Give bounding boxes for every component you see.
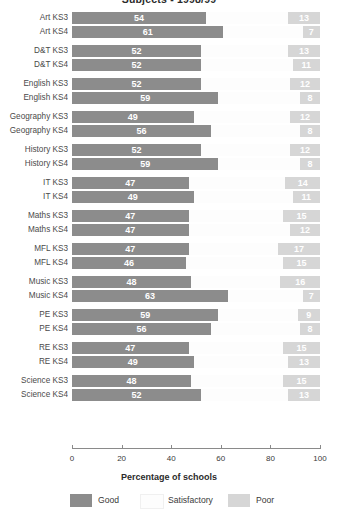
bar-segment-good: 59 <box>72 92 218 104</box>
bar-segment-good: 56 <box>72 125 211 137</box>
bar-group: PE KS3599PE KS4568 <box>0 309 338 335</box>
bar-track: 4715 <box>72 342 320 354</box>
bar-track: 4816 <box>72 276 320 288</box>
bar-value-good: 47 <box>72 342 189 354</box>
bar-row-label: Music KS4 <box>0 290 68 302</box>
bar-track: 568 <box>72 125 320 137</box>
bar-value-good: 47 <box>72 224 189 236</box>
bar-value-good: 48 <box>72 276 191 288</box>
bar-row: MFL KS34717 <box>0 243 338 255</box>
bar-segment-poor: 15 <box>283 257 320 269</box>
x-axis-title: Percentage of schools <box>0 472 338 482</box>
bar-segment-poor: 14 <box>285 177 320 189</box>
bar-segment-poor: 8 <box>300 125 320 137</box>
bar-row-label: Music KS3 <box>0 276 68 288</box>
bar-segment-poor: 12 <box>290 111 320 123</box>
bar-group: Geography KS34912Geography KS4568 <box>0 111 338 137</box>
bar-segment-poor: 13 <box>288 356 320 368</box>
bar-group: Science KS34815Science KS45213 <box>0 375 338 401</box>
bar-group: D&T KS35213D&T KS45211 <box>0 45 338 71</box>
bar-group: MFL KS34717MFL KS44615 <box>0 243 338 269</box>
axis-tick-label: 100 <box>313 454 326 463</box>
bar-segment-poor: 12 <box>290 144 320 156</box>
bar-segment-good: 54 <box>72 12 206 24</box>
bar-value-good: 52 <box>72 59 201 71</box>
bar-segment-good: 59 <box>72 309 218 321</box>
bar-segment-good: 47 <box>72 224 189 236</box>
bar-segment-poor: 8 <box>300 92 320 104</box>
bar-row-label: Art KS4 <box>0 26 68 38</box>
bar-value-poor: 7 <box>303 290 320 302</box>
bar-group: Music KS34816Music KS4637 <box>0 276 338 302</box>
bar-track: 4714 <box>72 177 320 189</box>
bar-value-poor: 11 <box>293 191 320 203</box>
bar-group: English KS35212English KS4598 <box>0 78 338 104</box>
bar-value-good: 47 <box>72 243 189 255</box>
bar-row: Music KS4637 <box>0 290 338 302</box>
bar-value-poor: 14 <box>285 177 320 189</box>
bar-segment-poor: 8 <box>300 158 320 170</box>
bar-value-good: 59 <box>72 92 218 104</box>
bar-row-label: Maths KS3 <box>0 210 68 222</box>
bar-segment-good: 56 <box>72 323 211 335</box>
bar-track: 617 <box>72 26 320 38</box>
bar-row-label: Art KS3 <box>0 12 68 24</box>
bar-segment-good: 59 <box>72 158 218 170</box>
legend: Good Satisfactory Poor <box>0 492 338 514</box>
bar-row-label: MFL KS3 <box>0 243 68 255</box>
bar-value-good: 56 <box>72 125 211 137</box>
bar-row-label: MFL KS4 <box>0 257 68 269</box>
bar-value-poor: 15 <box>283 257 320 269</box>
bar-segment-poor: 8 <box>300 323 320 335</box>
axis-tick-label: 60 <box>216 454 225 463</box>
bar-segment-good: 47 <box>72 243 189 255</box>
bar-value-poor: 8 <box>300 158 320 170</box>
bar-value-poor: 17 <box>278 243 320 255</box>
bar-track: 5212 <box>72 78 320 90</box>
axis-tick-label: 40 <box>167 454 176 463</box>
axis-tick-label: 80 <box>266 454 275 463</box>
bar-track: 5213 <box>72 389 320 401</box>
bar-segment-poor: 13 <box>288 12 320 24</box>
bar-track: 599 <box>72 309 320 321</box>
bar-track: 598 <box>72 158 320 170</box>
bar-value-good: 52 <box>72 45 201 57</box>
bar-row-label: Science KS4 <box>0 389 68 401</box>
bar-segment-poor: 15 <box>283 210 320 222</box>
bar-row: RE KS34715 <box>0 342 338 354</box>
bar-segment-poor: 15 <box>283 342 320 354</box>
bar-segment-poor: 13 <box>288 45 320 57</box>
bar-value-poor: 13 <box>288 356 320 368</box>
legend-label-good: Good <box>98 494 119 507</box>
legend-swatch-satisfactory <box>140 494 164 509</box>
bar-value-poor: 9 <box>298 309 320 321</box>
bar-value-poor: 15 <box>283 210 320 222</box>
legend-swatch-good <box>70 494 92 507</box>
bar-row-label: English KS3 <box>0 78 68 90</box>
bar-segment-good: 63 <box>72 290 228 302</box>
bar-segment-good: 49 <box>72 356 194 368</box>
bar-row: Geography KS4568 <box>0 125 338 137</box>
bar-track: 568 <box>72 323 320 335</box>
bar-row: IT KS44911 <box>0 191 338 203</box>
bar-value-good: 52 <box>72 144 201 156</box>
bar-row: English KS35212 <box>0 78 338 90</box>
bar-row: PE KS4568 <box>0 323 338 335</box>
bar-value-good: 49 <box>72 356 194 368</box>
bar-row-label: English KS4 <box>0 92 68 104</box>
bar-track: 637 <box>72 290 320 302</box>
bar-value-poor: 8 <box>300 125 320 137</box>
bar-row-label: Science KS3 <box>0 375 68 387</box>
bar-group: Art KS35413Art KS4617 <box>0 12 338 38</box>
bar-row-label: D&T KS3 <box>0 45 68 57</box>
page-title: Subjects - 1998/99 <box>0 0 338 5</box>
bar-segment-good: 46 <box>72 257 186 269</box>
bar-value-poor: 7 <box>303 26 320 38</box>
bar-track: 5213 <box>72 45 320 57</box>
bar-row-label: PE KS3 <box>0 309 68 321</box>
bar-row: Art KS4617 <box>0 26 338 38</box>
bar-segment-good: 47 <box>72 177 189 189</box>
bar-row-label: Geography KS3 <box>0 111 68 123</box>
bar-value-good: 61 <box>72 26 223 38</box>
bar-row: Maths KS34715 <box>0 210 338 222</box>
